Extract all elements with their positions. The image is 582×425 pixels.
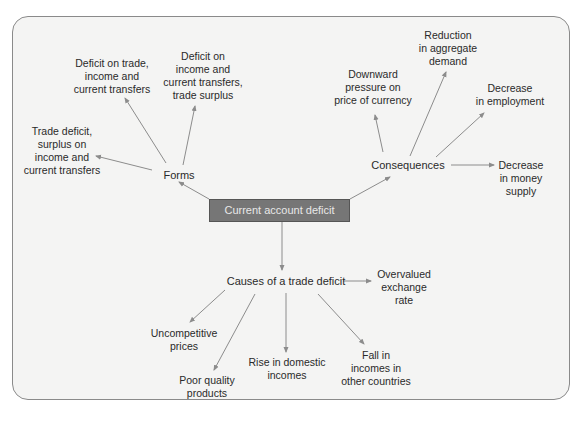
forms-child-trade-surplus: Deficit on income and current transfers,…	[163, 50, 242, 102]
consequences-child-decrease-money-supply: Decrease in money supply	[491, 159, 552, 198]
arrow-center-to-forms	[179, 182, 209, 199]
arrow-consequences-to-child-1	[375, 115, 383, 152]
arrow-consequences-to-child-3	[436, 113, 484, 157]
arrow-center-to-consequences	[350, 177, 390, 199]
consequences-child-reduction-demand: Reduction in aggregate demand	[419, 29, 477, 68]
arrow-causes-to-child-5	[318, 294, 364, 344]
causes-child-uncompetitive-prices: Uncompetitive prices	[151, 327, 218, 353]
causes-child-poor-quality-products: Poor quality products	[179, 374, 234, 400]
forms-child-trade-deficit-surplus: Trade deficit, surplus on income and cur…	[24, 125, 100, 177]
forms-node: Forms	[163, 169, 194, 182]
forms-child-deficit-on-trade: Deficit on trade, income and current tra…	[74, 57, 150, 96]
causes-child-rise-domestic-incomes: Rise in domestic incomes	[248, 356, 325, 382]
arrow-forms-to-child-3	[183, 106, 195, 165]
consequences-child-downward-pressure: Downward pressure on price of currency	[334, 68, 412, 107]
arrow-forms-to-child-1	[96, 156, 152, 170]
consequences-child-decrease-employment: Decrease in employment	[476, 82, 544, 108]
arrow-causes-to-child-2	[190, 290, 225, 322]
arrow-consequences-to-child-2	[410, 72, 446, 156]
causes-child-fall-incomes-other-countries: Fall in incomes in other countries	[341, 349, 410, 388]
consequences-node: Consequences	[371, 159, 444, 172]
arrow-forms-to-child-2	[125, 98, 166, 163]
causes-node: Causes of a trade deficit	[227, 275, 346, 288]
center-node-current-account-deficit: Current account deficit	[209, 199, 350, 222]
causes-child-overvalued-exchange-rate: Overvalued exchange rate	[377, 268, 431, 307]
